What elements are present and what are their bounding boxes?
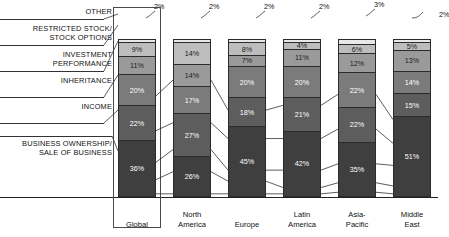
- bar-middle-east[interactable]: 5%13%14%15%51%: [393, 39, 431, 197]
- segment-business-ownership-sale-of-business[interactable]: 45%: [228, 126, 266, 197]
- label-rule-other: [0, 19, 104, 20]
- segment-business-ownership-sale-of-business[interactable]: 26%: [173, 156, 211, 197]
- segment-value-label: 35%: [350, 165, 365, 174]
- bar-north-america[interactable]: 14%14%17%27%26%: [173, 39, 211, 197]
- other-callout-asia-pacific: 3%: [374, 0, 384, 9]
- segment-inheritance[interactable]: 20%: [228, 66, 266, 98]
- other-callout-middle-east: 2%: [439, 10, 449, 19]
- label-rule-restricted: [0, 45, 104, 46]
- segment-investment-performance[interactable]: 11%: [283, 49, 321, 66]
- segment-investment-performance[interactable]: 7%: [228, 55, 266, 66]
- category-label-inheritance: INHERITANCE: [0, 77, 112, 86]
- segment-income[interactable]: 27%: [173, 113, 211, 156]
- other-callout-north-america: 2%: [209, 2, 219, 11]
- segment-value-label: 26%: [185, 172, 200, 181]
- label-rule-investment: [0, 71, 104, 72]
- category-label-column: OTHER RESTRICTED STOCK/ STOCK OPTIONS IN…: [0, 0, 112, 237]
- segment-value-label: 22%: [350, 120, 365, 129]
- segment-business-ownership-sale-of-business[interactable]: 35%: [338, 142, 376, 197]
- segment-value-label: 51%: [405, 152, 420, 161]
- segment-value-label: 8%: [242, 45, 253, 54]
- segment-value-label: 21%: [295, 110, 310, 119]
- segment-value-label: 22%: [350, 86, 365, 95]
- segment-investment-performance[interactable]: 12%: [338, 53, 376, 72]
- label-rule-income: [0, 123, 104, 124]
- x-tick-europe: Europe: [216, 220, 278, 229]
- x-tick-middle-east: Middle East: [381, 210, 443, 229]
- segment-business-ownership-sale-of-business[interactable]: 51%: [393, 116, 431, 197]
- segment-value-label: 15%: [405, 101, 420, 110]
- x-axis-line: [0, 197, 438, 198]
- other-callout-europe: 2%: [264, 2, 274, 11]
- other-callout-latin-america: 2%: [319, 2, 329, 11]
- segment-investment-performance[interactable]: 14%: [173, 64, 211, 86]
- segment-value-label: 42%: [295, 159, 310, 168]
- segment-income[interactable]: 18%: [228, 97, 266, 125]
- x-tick-north-america: North America: [161, 210, 223, 229]
- segment-value-label: 20%: [295, 78, 310, 87]
- segment-restricted-stock-stock-options[interactable]: 14%: [173, 42, 211, 64]
- segment-value-label: 20%: [240, 78, 255, 87]
- segment-value-label: 14%: [185, 49, 200, 58]
- category-label-restricted-stock: RESTRICTED STOCK/ STOCK OPTIONS: [0, 25, 112, 42]
- segment-restricted-stock-stock-options[interactable]: 6%: [338, 44, 376, 53]
- segment-value-label: 17%: [185, 96, 200, 105]
- bar-latin-america[interactable]: 4%11%20%21%42%: [283, 39, 321, 197]
- segment-value-label: 12%: [350, 59, 365, 68]
- segment-value-label: 27%: [185, 131, 200, 140]
- global-highlight-box: [113, 7, 161, 228]
- segment-value-label: 45%: [240, 157, 255, 166]
- category-label-business-ownership: BUSINESS OWNERSHIP/ SALE OF BUSINESS: [0, 140, 112, 157]
- label-rule-inheritance: [0, 97, 104, 98]
- segment-value-label: 18%: [240, 108, 255, 117]
- segment-inheritance[interactable]: 20%: [283, 66, 321, 98]
- segment-restricted-stock-stock-options[interactable]: 8%: [228, 42, 266, 55]
- x-tick-latin-america: Latin America: [271, 210, 333, 229]
- bar-europe[interactable]: 8%7%20%18%45%: [228, 39, 266, 197]
- segment-value-label: 13%: [405, 56, 420, 65]
- segment-inheritance[interactable]: 17%: [173, 86, 211, 113]
- segment-income[interactable]: 15%: [393, 93, 431, 117]
- segment-income[interactable]: 21%: [283, 97, 321, 130]
- segment-inheritance[interactable]: 14%: [393, 71, 431, 93]
- segment-business-ownership-sale-of-business[interactable]: 42%: [283, 131, 321, 197]
- segment-value-label: 14%: [185, 71, 200, 80]
- x-tick-asia-pacific: Asia- Pacific: [326, 210, 388, 229]
- category-label-investment-performance: INVESTMENT PERFORMANCE: [0, 51, 112, 68]
- segment-income[interactable]: 22%: [338, 107, 376, 142]
- segment-value-label: 11%: [295, 53, 309, 62]
- category-label-income: INCOME: [0, 103, 112, 112]
- segment-inheritance[interactable]: 22%: [338, 72, 376, 107]
- bar-asia-pacific[interactable]: 6%12%22%22%35%: [338, 39, 376, 197]
- segment-restricted-stock-stock-options[interactable]: 5%: [393, 42, 431, 50]
- segment-investment-performance[interactable]: 13%: [393, 50, 431, 71]
- segment-value-label: 14%: [405, 78, 420, 87]
- category-label-other: OTHER: [0, 8, 112, 17]
- segment-value-label: 7%: [242, 56, 253, 65]
- segment-value-label: 6%: [352, 45, 363, 54]
- label-rule-business: [0, 136, 112, 137]
- plot-area: 9%11%20%22%36%Global2%14%14%17%27%26%Nor…: [112, 0, 438, 237]
